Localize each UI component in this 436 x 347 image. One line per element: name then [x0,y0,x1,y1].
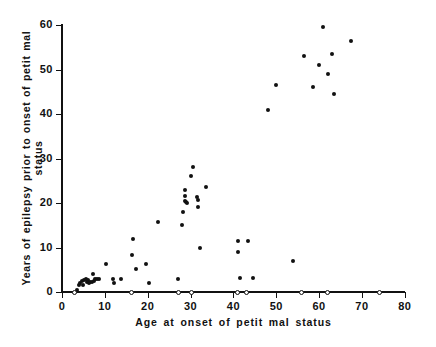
data-point [332,92,336,96]
x-tick-label-80: 80 [392,300,418,312]
data-point [204,185,208,189]
x-tick-0 [62,292,63,298]
scatter-plot-figure: 01020304050607080 0102030405060 Age at o… [0,0,436,347]
data-point [251,276,255,280]
y-tick-0 [56,292,62,293]
data-point [311,85,315,89]
data-point [189,174,193,178]
data-point [156,220,160,224]
data-point [181,210,185,214]
data-point [302,54,306,58]
data-point [93,277,97,281]
x-tick-40 [233,292,234,298]
x-tick-label-30: 30 [178,300,204,312]
data-point [144,262,148,266]
x-tick-label-50: 50 [263,300,289,312]
data-point [90,280,94,284]
data-point [198,246,202,250]
data-point [88,280,92,284]
data-point [349,39,353,43]
data-point [236,239,240,243]
x-tick-20 [148,292,149,298]
data-point [119,277,123,281]
data-point [95,277,99,281]
data-point [238,276,242,280]
data-point [81,283,85,287]
x-tick-10 [105,292,106,298]
x-tick-70 [362,292,363,298]
y-tick-50 [56,70,62,71]
data-point [111,277,115,281]
data-points-layer [0,0,436,347]
data-point [112,281,116,285]
x-tick-80 [405,292,406,298]
x-tick-50 [276,292,277,298]
data-point [134,267,138,271]
data-point [104,262,108,266]
data-point [183,194,187,198]
data-point [321,25,325,29]
data-point [246,239,250,243]
data-point [84,277,88,281]
x-tick-30 [191,292,192,298]
data-point [97,277,101,281]
data-point [176,277,180,281]
data-point [291,259,295,263]
data-point [236,250,240,254]
data-point [274,83,278,87]
data-point [92,279,96,283]
data-point [147,281,151,285]
data-point [130,253,134,257]
data-point [196,205,200,209]
data-point [85,280,89,284]
x-tick-label-0: 0 [49,300,75,312]
x-tick-label-40: 40 [220,300,246,312]
data-point [78,281,82,285]
data-point [266,108,270,112]
y-tick-10 [56,248,62,249]
data-point [184,200,188,204]
data-point [80,279,84,283]
data-point [180,223,184,227]
x-tick-label-60: 60 [306,300,332,312]
data-point [191,165,195,169]
data-point [87,281,91,285]
data-point [183,188,187,192]
y-tick-20 [56,203,62,204]
y-tick-30 [56,159,62,160]
x-axis-title: Age at onset of petit mal status [62,316,405,328]
y-tick-40 [56,114,62,115]
data-point [326,72,330,76]
x-tick-label-20: 20 [135,300,161,312]
data-point [86,278,90,282]
data-point [131,237,135,241]
data-point [330,52,334,56]
data-point [185,201,189,205]
data-point [195,195,199,199]
x-tick-label-10: 10 [92,300,118,312]
data-point [317,63,321,67]
x-tick-label-70: 70 [349,300,375,312]
data-point [183,199,187,203]
data-point [82,278,86,282]
y-axis-title: Years of epilepsy prior to onset of peti… [20,13,44,303]
data-point [91,272,95,276]
data-point [196,198,200,202]
x-tick-60 [319,292,320,298]
y-tick-60 [56,25,62,26]
data-point [77,283,81,287]
